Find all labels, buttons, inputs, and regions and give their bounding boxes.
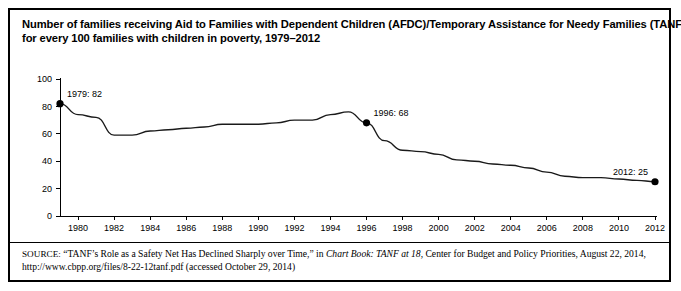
source-note: SOURCE: “TANF’s Role as a Safety Net Has… [22,248,658,273]
x-tick-label: 1980 [68,223,88,233]
chart-title-line-1: Number of families receiving Aid to Fami… [22,17,662,31]
x-tick-label: 1994 [320,223,340,233]
y-tick-label: 60 [42,129,52,139]
figure-panel: Number of families receiving Aid to Fami… [8,8,671,282]
x-tick-label: 1988 [212,223,232,233]
source-divider [10,242,669,243]
data-point-annotations: 1979: 821996: 682012: 25 [67,89,648,177]
data-point-markers [56,100,658,185]
x-tick-label: 1998 [393,223,413,233]
y-axis-ticks [56,79,60,216]
y-tick-label: 100 [37,74,52,84]
chart-plot-area: 020406080100 198019821984198619881990199… [10,62,669,240]
y-tick-label: 20 [42,184,52,194]
source-text-before: “TANF’s Role as a Safety Net Has Decline… [61,248,326,259]
y-axis-tick-labels: 020406080100 [37,74,52,221]
x-tick-label: 1990 [248,223,268,233]
x-tick-label: 1982 [104,223,124,233]
x-tick-label: 1984 [140,223,160,233]
x-axis-ticks [78,216,655,220]
x-tick-label: 2000 [429,223,449,233]
x-tick-label: 2012 [645,223,665,233]
data-series-line [60,104,655,182]
source-publication-title: Chart Book: TANF at 18 [326,248,421,259]
data-point-marker [56,100,63,107]
data-point-annotation: 2012: 25 [613,167,648,177]
x-tick-label: 1986 [176,223,196,233]
x-tick-label: 2004 [501,223,521,233]
x-tick-label: 2002 [465,223,485,233]
chart-title: Number of families receiving Aid to Fami… [22,17,662,45]
data-point-annotation: 1996: 68 [374,108,409,118]
y-tick-label: 0 [47,211,52,221]
x-tick-label: 1992 [284,223,304,233]
y-tick-label: 40 [42,156,52,166]
line-chart-svg: 020406080100 198019821984198619881990199… [10,62,669,240]
data-point-marker [651,178,658,185]
x-tick-label: 2008 [573,223,593,233]
x-tick-label: 2010 [609,223,629,233]
chart-title-line-2: for every 100 families with children in … [22,31,662,45]
x-tick-label: 2006 [537,223,557,233]
source-label: SOURCE: [22,249,61,259]
data-point-annotation: 1979: 82 [67,89,102,99]
x-axis-tick-labels: 1980198219841986198819901992199419961998… [68,223,665,233]
x-tick-label: 1996 [356,223,376,233]
y-tick-label: 80 [42,102,52,112]
data-point-marker [363,119,370,126]
